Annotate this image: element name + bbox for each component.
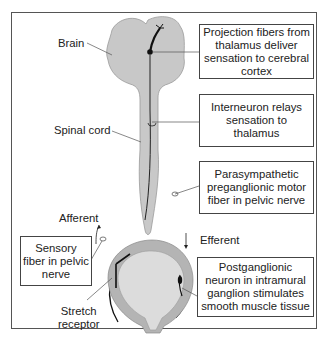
box-parasympathetic: Parasympathetic preganglionic motor fibe…	[199, 161, 314, 214]
box-postganglionic: Postganglionic neuron in intramural gang…	[197, 257, 314, 317]
brain-shape	[107, 17, 185, 235]
label-stretch-receptor: Stretch receptor	[58, 305, 99, 331]
label-efferent: Efferent	[200, 234, 239, 247]
label-afferent: Afferent	[59, 212, 98, 225]
label-brain: Brain	[58, 37, 84, 50]
box-interneuron: Interneuron relays sensation to thalamus	[199, 94, 314, 147]
box-projection-fibers: Projection fibers from thalamus deliver …	[199, 24, 314, 79]
box-sensory-fiber: Sensory fiber in pelvic nerve	[20, 236, 92, 286]
thalamus-neuron	[147, 49, 153, 55]
label-spinal-cord: Spinal cord	[54, 124, 111, 137]
